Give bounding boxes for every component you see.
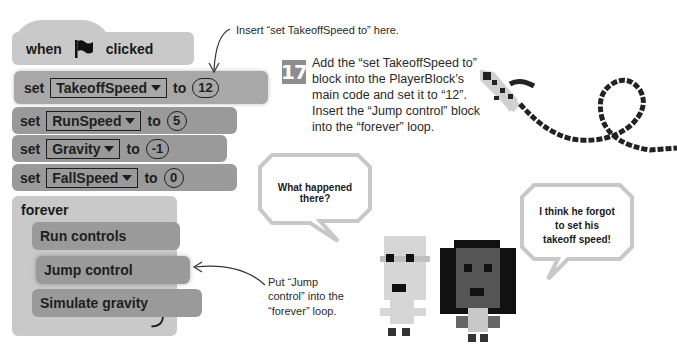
rocket-trail-illustration: [480, 60, 677, 160]
callout-insert-takeoffspeed: Insert “set TakeoffSpeed to” here.: [236, 23, 399, 37]
speech-text-right: I think he forgot to set his takeoff spe…: [522, 205, 632, 247]
step-instructions: Add the “set TakeoffSpeed to” block into…: [312, 55, 492, 135]
pixel-character-light: [380, 236, 430, 340]
callout-jump-control: Put “Jump control” into the “forever” lo…: [268, 275, 344, 318]
speech-text-left: What happened there?: [262, 182, 368, 204]
pixel-character-dark: [440, 240, 516, 344]
step-number-badge: 17: [282, 60, 306, 84]
